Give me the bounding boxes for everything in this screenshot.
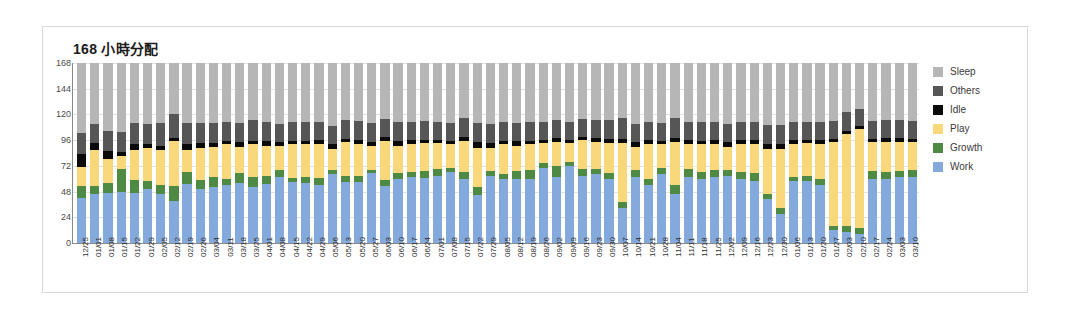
bar-segment-growth[interactable] <box>209 177 218 188</box>
bar-segment-work[interactable] <box>433 176 442 244</box>
bar-segment-sleep[interactable] <box>499 63 508 122</box>
stacked-bar[interactable] <box>895 63 904 243</box>
bar-slot[interactable] <box>708 63 721 243</box>
bar-segment-play[interactable] <box>868 142 877 171</box>
bar-slot[interactable] <box>365 63 378 243</box>
bar-segment-others[interactable] <box>196 123 205 143</box>
bar-segment-sleep[interactable] <box>842 63 851 112</box>
bar-segment-sleep[interactable] <box>789 63 798 122</box>
bar-segment-others[interactable] <box>288 122 297 141</box>
stacked-bar[interactable] <box>670 63 679 243</box>
bar-segment-sleep[interactable] <box>407 63 416 122</box>
stacked-bar[interactable] <box>829 63 838 243</box>
stacked-bar[interactable] <box>565 63 574 243</box>
bar-segment-work[interactable] <box>393 179 402 243</box>
bar-segment-work[interactable] <box>750 181 759 243</box>
bar-segment-play[interactable] <box>433 143 442 169</box>
bar-segment-others[interactable] <box>881 120 890 138</box>
bar-segment-sleep[interactable] <box>473 63 482 123</box>
bar-segment-work[interactable] <box>723 176 732 244</box>
stacked-bar[interactable] <box>525 63 534 243</box>
bar-segment-play[interactable] <box>565 143 574 161</box>
stacked-bar[interactable] <box>486 63 495 243</box>
bar-segment-work[interactable] <box>90 194 99 243</box>
bar-segment-play[interactable] <box>393 146 402 174</box>
bar-segment-others[interactable] <box>710 122 719 140</box>
bar-segment-growth[interactable] <box>235 173 244 183</box>
bar-segment-work[interactable] <box>262 184 271 243</box>
bar-segment-sleep[interactable] <box>763 63 772 125</box>
bar-segment-others[interactable] <box>802 122 811 140</box>
stacked-bar[interactable] <box>301 63 310 243</box>
bar-segment-others[interactable] <box>525 122 534 141</box>
bar-segment-play[interactable] <box>842 134 851 226</box>
bar-segment-others[interactable] <box>776 125 785 144</box>
stacked-bar[interactable] <box>789 63 798 243</box>
bar-segment-growth[interactable] <box>77 186 86 198</box>
bar-slot[interactable] <box>761 63 774 243</box>
bar-segment-others[interactable] <box>604 120 613 139</box>
bar-segment-work[interactable] <box>789 181 798 243</box>
bar-segment-play[interactable] <box>169 141 178 186</box>
bar-slot[interactable] <box>233 63 246 243</box>
bar-segment-play[interactable] <box>459 141 468 172</box>
stacked-bar[interactable] <box>604 63 613 243</box>
stacked-bar[interactable] <box>552 63 561 243</box>
bar-slot[interactable] <box>563 63 576 243</box>
bar-segment-others[interactable] <box>103 131 112 151</box>
bar-segment-sleep[interactable] <box>565 63 574 122</box>
bar-segment-work[interactable] <box>525 179 534 243</box>
bar-segment-work[interactable] <box>736 179 745 243</box>
bar-slot[interactable] <box>352 63 365 243</box>
bar-slot[interactable] <box>457 63 470 243</box>
bar-segment-work[interactable] <box>473 195 482 243</box>
bar-slot[interactable] <box>246 63 259 243</box>
bar-slot[interactable] <box>748 63 761 243</box>
bar-segment-sleep[interactable] <box>328 63 337 126</box>
bar-segment-work[interactable] <box>591 174 600 243</box>
stacked-bar[interactable] <box>881 63 890 243</box>
bar-segment-play[interactable] <box>117 156 126 169</box>
bar-segment-growth[interactable] <box>750 173 759 181</box>
bar-segment-work[interactable] <box>710 177 719 243</box>
bar-segment-work[interactable] <box>631 177 640 243</box>
bar-segment-work[interactable] <box>407 177 416 243</box>
bar-segment-work[interactable] <box>130 193 139 243</box>
bar-segment-work[interactable] <box>697 179 706 243</box>
stacked-bar[interactable] <box>262 63 271 243</box>
bar-segment-sleep[interactable] <box>301 63 310 122</box>
bar-slot[interactable] <box>207 63 220 243</box>
bar-slot[interactable] <box>616 63 629 243</box>
bar-segment-others[interactable] <box>328 126 337 144</box>
bar-segment-sleep[interactable] <box>288 63 297 122</box>
bar-slot[interactable] <box>642 63 655 243</box>
bar-segment-sleep[interactable] <box>433 63 442 122</box>
bar-segment-play[interactable] <box>275 146 284 171</box>
bar-segment-play[interactable] <box>815 144 824 178</box>
bar-segment-play[interactable] <box>288 144 297 177</box>
bar-segment-play[interactable] <box>855 129 864 228</box>
bar-slot[interactable] <box>629 63 642 243</box>
stacked-bar[interactable] <box>235 63 244 243</box>
bar-segment-play[interactable] <box>196 148 205 180</box>
stacked-bar[interactable] <box>868 63 877 243</box>
bar-segment-play[interactable] <box>420 143 429 171</box>
stacked-bar[interactable] <box>156 63 165 243</box>
bar-segment-work[interactable] <box>156 194 165 243</box>
bar-slot[interactable] <box>326 63 339 243</box>
bar-segment-sleep[interactable] <box>314 63 323 122</box>
stacked-bar[interactable] <box>169 63 178 243</box>
bar-segment-play[interactable] <box>367 146 376 171</box>
stacked-bar[interactable] <box>433 63 442 243</box>
bar-segment-play[interactable] <box>539 143 548 162</box>
bar-segment-growth[interactable] <box>103 183 112 193</box>
bar-segment-sleep[interactable] <box>723 63 732 124</box>
bar-segment-play[interactable] <box>684 144 693 169</box>
bar-segment-growth[interactable] <box>262 176 271 185</box>
bar-segment-work[interactable] <box>499 179 508 243</box>
bar-segment-others[interactable] <box>314 122 323 140</box>
bar-slot[interactable] <box>471 63 484 243</box>
bar-slot[interactable] <box>339 63 352 243</box>
bar-segment-work[interactable] <box>446 172 455 243</box>
bar-segment-others[interactable] <box>262 122 271 141</box>
